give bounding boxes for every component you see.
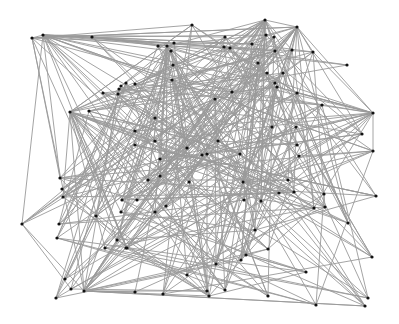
graph-node bbox=[171, 63, 174, 66]
graph-node bbox=[290, 48, 293, 51]
graph-node bbox=[366, 296, 369, 299]
graph-node bbox=[116, 92, 119, 95]
graph-node bbox=[90, 35, 93, 38]
graph-node bbox=[63, 277, 66, 280]
graph-node bbox=[264, 33, 267, 36]
graph-node bbox=[205, 152, 208, 155]
graph-node bbox=[323, 205, 326, 208]
graph-node bbox=[286, 178, 289, 181]
graph-node bbox=[135, 198, 138, 201]
graph-node bbox=[94, 214, 97, 217]
graph-node bbox=[165, 44, 168, 47]
graph-node bbox=[30, 36, 33, 39]
graph-node bbox=[250, 42, 253, 45]
graph-node bbox=[370, 255, 373, 258]
graph-node bbox=[119, 84, 122, 87]
graph-node bbox=[185, 273, 188, 276]
graph-edge bbox=[84, 291, 365, 306]
graph-node bbox=[153, 139, 156, 142]
graph-node bbox=[57, 222, 60, 225]
graph-node bbox=[256, 61, 259, 64]
graph-edge bbox=[348, 223, 372, 257]
graph-node bbox=[133, 143, 136, 146]
graph-node bbox=[153, 116, 156, 119]
graph-node bbox=[223, 35, 226, 38]
graph-node bbox=[295, 91, 298, 94]
graph-node bbox=[41, 33, 44, 36]
graph-node bbox=[61, 195, 64, 198]
network-graph bbox=[0, 0, 399, 324]
graph-node bbox=[297, 154, 300, 157]
graph-node bbox=[345, 63, 348, 66]
graph-node bbox=[124, 81, 127, 84]
graph-node bbox=[216, 139, 219, 142]
graph-node bbox=[101, 91, 104, 94]
graph-node bbox=[69, 287, 72, 290]
graph-node bbox=[133, 82, 136, 85]
graph-node bbox=[54, 296, 57, 299]
graph-node bbox=[120, 198, 123, 201]
graph-node bbox=[164, 204, 167, 207]
graph-node bbox=[20, 222, 23, 225]
graph-node bbox=[60, 187, 63, 190]
graph-node bbox=[312, 206, 315, 209]
graph-node bbox=[213, 97, 216, 100]
graph-node bbox=[230, 90, 233, 93]
graph-node bbox=[185, 146, 188, 149]
graph-node bbox=[292, 190, 295, 193]
graph-node bbox=[270, 125, 273, 128]
graph-edge bbox=[32, 38, 84, 291]
graph-node bbox=[238, 152, 241, 155]
graph-node bbox=[103, 246, 106, 249]
graph-node bbox=[68, 110, 71, 113]
graph-node bbox=[374, 194, 377, 197]
graph-node bbox=[158, 157, 161, 160]
graph-node bbox=[119, 210, 122, 213]
graph-node bbox=[172, 41, 175, 44]
graph-node bbox=[295, 25, 298, 28]
graph-node bbox=[346, 221, 349, 224]
graph-node bbox=[223, 288, 226, 291]
graph-node bbox=[205, 289, 208, 292]
graph-node bbox=[187, 180, 190, 183]
graph-node bbox=[263, 18, 266, 21]
graph-node bbox=[58, 176, 61, 179]
graph-node bbox=[214, 262, 217, 265]
graph-node bbox=[133, 129, 136, 132]
graph-node bbox=[322, 192, 325, 195]
graph-node bbox=[265, 71, 268, 74]
graph-node bbox=[266, 294, 269, 297]
graph-node bbox=[156, 44, 159, 47]
graph-node bbox=[311, 50, 314, 53]
graph-node bbox=[371, 149, 374, 152]
graph-node bbox=[360, 132, 363, 135]
graph-node bbox=[241, 180, 244, 183]
graph-node bbox=[281, 71, 284, 74]
graph-edges bbox=[22, 20, 376, 306]
graph-node bbox=[153, 210, 156, 213]
graph-edge bbox=[22, 35, 43, 224]
graph-node bbox=[273, 49, 276, 52]
graph-node bbox=[294, 125, 297, 128]
graph-node bbox=[371, 111, 374, 114]
graph-node bbox=[228, 46, 231, 49]
graph-node bbox=[295, 143, 298, 146]
graph-node bbox=[320, 103, 323, 106]
graph-node bbox=[200, 153, 203, 156]
graph-node bbox=[146, 178, 149, 181]
graph-node bbox=[259, 199, 262, 202]
graph-node bbox=[207, 294, 210, 297]
graph-node bbox=[363, 304, 366, 307]
graph-node bbox=[82, 289, 85, 292]
graph-node bbox=[314, 303, 317, 306]
graph-node bbox=[170, 78, 173, 81]
graph-node bbox=[277, 191, 280, 194]
graph-node bbox=[158, 174, 161, 177]
graph-node bbox=[239, 258, 242, 261]
graph-node bbox=[266, 247, 269, 250]
graph-node bbox=[222, 45, 225, 48]
graph-node bbox=[115, 238, 118, 241]
graph-node bbox=[124, 246, 127, 249]
graph-node bbox=[272, 35, 275, 38]
graph-node bbox=[133, 290, 136, 293]
